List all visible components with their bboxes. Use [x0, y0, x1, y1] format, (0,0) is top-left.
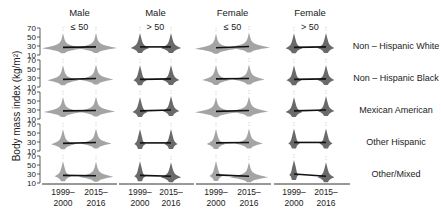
- y-tick-label: 50: [27, 33, 36, 42]
- y-tick-label: 70: [27, 24, 36, 33]
- row-panel: [55, 154, 335, 182]
- violin: [235, 128, 263, 148]
- y-axis: 10305070: [27, 56, 40, 92]
- violin-pair: [44, 90, 115, 116]
- violin-pair: [286, 90, 335, 117]
- x-tick-label: 1999–: [128, 187, 152, 197]
- x-axes: 1999–20002015–20161999–20002015–20161999…: [42, 184, 350, 208]
- violin-pair: [202, 58, 264, 84]
- x-tick-label: 2015–: [84, 187, 108, 197]
- y-tick-label: 50: [27, 129, 36, 138]
- violin-pair: [47, 58, 113, 85]
- violin: [44, 97, 82, 117]
- violin-pair: [288, 122, 332, 148]
- violin: [134, 129, 145, 149]
- x-tick-label: 2015–: [237, 187, 261, 197]
- y-tick-label: 50: [27, 161, 36, 170]
- y-tick-label: 10: [27, 179, 36, 188]
- y-axis: 10305070: [27, 152, 40, 188]
- violin: [51, 129, 75, 149]
- x-tick-label: 1999–: [204, 187, 228, 197]
- median-trend-line: [294, 110, 326, 111]
- x-tick-label: 2016: [162, 198, 181, 208]
- violin-pair: [51, 122, 112, 149]
- row-label: Non – Hispanic White: [353, 41, 440, 51]
- violin: [164, 129, 177, 149]
- median-trend-line: [216, 110, 249, 111]
- y-axis: 10305070: [27, 24, 40, 60]
- violin: [133, 65, 146, 85]
- column-header-age: ≤ 50: [224, 22, 241, 32]
- violin: [47, 65, 78, 85]
- y-tick-label: 70: [27, 56, 36, 65]
- y-tick-label: 30: [27, 42, 36, 51]
- violin-pair: [207, 122, 263, 148]
- row-label: Other Hispanic: [366, 137, 426, 147]
- median-trend-line: [140, 175, 171, 176]
- violin: [133, 97, 148, 117]
- x-axis: 1999–20002015–2016: [42, 184, 117, 208]
- y-tick-label: 30: [27, 170, 36, 179]
- violin: [161, 162, 181, 182]
- x-tick-label: 2000: [54, 198, 73, 208]
- violin: [195, 34, 237, 54]
- column-header-age: ≤ 50: [71, 22, 88, 32]
- y-tick-label: 50: [27, 97, 36, 106]
- x-axis: 1999–20002015–2016: [274, 184, 350, 208]
- violin-pair: [55, 155, 114, 181]
- violin: [55, 161, 72, 181]
- violin: [42, 33, 84, 53]
- row-labels: Non – Hispanic WhiteNon – Hispanic Black…: [353, 41, 440, 179]
- x-tick-label: 2000: [131, 198, 150, 208]
- violin: [163, 96, 180, 116]
- violin: [288, 128, 299, 148]
- violin: [163, 65, 180, 85]
- violin: [318, 96, 335, 116]
- y-axis: 10305070: [27, 120, 40, 156]
- median-trend-line: [63, 78, 96, 79]
- column-headers: Male≤ 50Male> 50Female≤ 50Female> 50: [69, 7, 326, 32]
- y-axis: 10305070: [27, 88, 40, 124]
- violin: [230, 96, 268, 116]
- violin: [77, 96, 115, 116]
- row-label: Mexican American: [359, 105, 433, 115]
- bmi-violin-chart: Body mass index (kg/m²) Male≤ 50Male> 50…: [0, 0, 441, 219]
- median-trend-line: [63, 142, 96, 143]
- x-axis: 1999–20002015–2016: [119, 184, 194, 208]
- violin: [318, 65, 335, 85]
- x-tick-label: 1999–: [51, 187, 75, 197]
- violin: [131, 33, 150, 53]
- violin: [228, 32, 270, 52]
- column-header-sex: Female: [217, 7, 249, 18]
- violin: [286, 97, 303, 117]
- median-trend-line: [140, 110, 171, 111]
- row-panel: [44, 90, 335, 117]
- x-tick-label: 2016: [317, 198, 336, 208]
- panels: [42, 26, 334, 182]
- violin-pair: [289, 154, 334, 182]
- median-trend-line: [294, 174, 326, 176]
- violin: [318, 33, 335, 53]
- violin: [289, 160, 299, 180]
- violin-pair: [287, 59, 335, 85]
- violin: [195, 97, 237, 117]
- column-header-age: > 50: [147, 22, 165, 32]
- violin: [79, 64, 114, 84]
- violin: [80, 128, 111, 148]
- row-panel: [51, 122, 333, 149]
- violin: [318, 162, 335, 182]
- column-header-sex: Male: [69, 7, 90, 18]
- violin-pair: [134, 155, 181, 182]
- x-tick-label: 2000: [207, 198, 226, 208]
- violin: [75, 33, 117, 53]
- y-tick-label: 70: [27, 88, 36, 97]
- y-axis-label: Body mass index (kg/m²): [11, 51, 22, 162]
- y-tick-label: 50: [27, 65, 36, 74]
- x-tick-label: 2015–: [159, 187, 183, 197]
- y-tick-label: 30: [27, 74, 36, 83]
- y-tick-label: 70: [27, 120, 36, 129]
- violin-pair: [209, 155, 268, 182]
- y-tick-label: 70: [27, 152, 36, 161]
- violin-pair: [133, 59, 179, 85]
- violin-pair: [195, 90, 268, 117]
